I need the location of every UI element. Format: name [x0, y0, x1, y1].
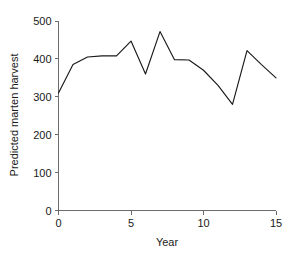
x-tick-label: 5: [128, 217, 134, 229]
x-tick-label: 15: [270, 217, 282, 229]
y-tick-label: 0: [45, 205, 51, 217]
chart-figure: 0100200300400500 051015 Year Predicted m…: [0, 0, 293, 254]
line-chart: 0100200300400500 051015 Year Predicted m…: [0, 0, 293, 254]
y-tick-label: 400: [33, 53, 51, 65]
y-axis-title: Predicted marten harvest: [8, 54, 20, 177]
x-axis-title: Year: [156, 236, 179, 248]
y-tick-label: 200: [33, 129, 51, 141]
chart-background: [0, 0, 293, 254]
y-tick-label: 300: [33, 91, 51, 103]
x-tick-label: 0: [55, 217, 61, 229]
y-tick-label: 100: [33, 167, 51, 179]
x-tick-label: 10: [197, 217, 209, 229]
y-tick-label: 500: [33, 15, 51, 27]
